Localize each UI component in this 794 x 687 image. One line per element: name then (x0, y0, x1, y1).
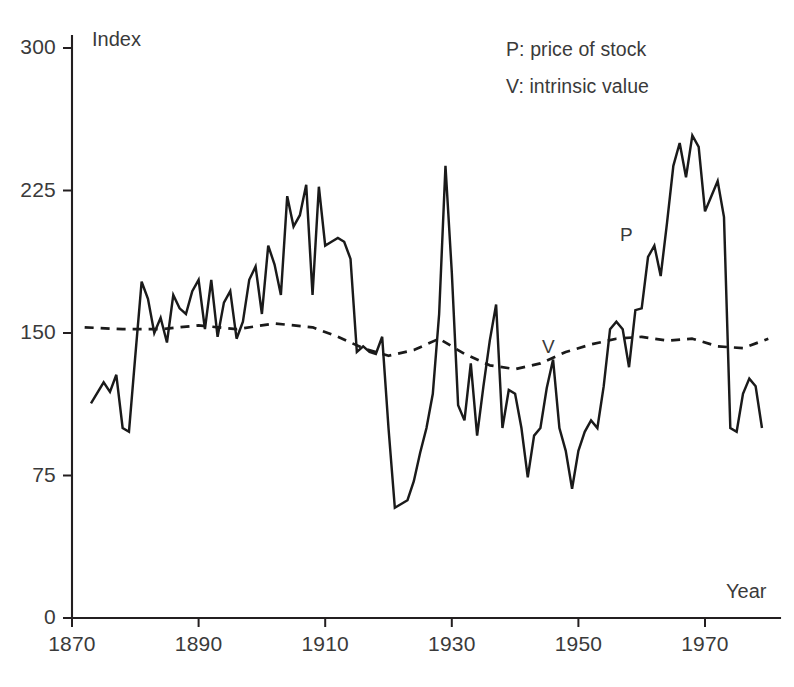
x-tick-label-1970: 1970 (665, 632, 745, 656)
x-tick-label-1910: 1910 (285, 632, 365, 656)
y-tick-label-300: 300 (0, 35, 56, 59)
x-tick-label-1870: 1870 (32, 632, 112, 656)
x-axis-title: Year (726, 580, 766, 603)
y-tick-label-0: 0 (0, 605, 56, 629)
x-axis-ticks (72, 618, 705, 627)
series-label-value: V (542, 336, 555, 358)
series-line-price (91, 135, 762, 507)
y-tick-label-150: 150 (0, 320, 56, 344)
y-tick-label-75: 75 (0, 463, 56, 487)
legend-item-value: V: intrinsic value (506, 75, 649, 98)
chart-plot-area (0, 0, 794, 687)
y-tick-label-225: 225 (0, 178, 56, 202)
y-axis-ticks (63, 48, 72, 618)
chart-figure: 075150225300 187018901910193019501970 In… (0, 0, 794, 687)
series-label-price: P (620, 224, 633, 246)
x-tick-label-1890: 1890 (159, 632, 239, 656)
legend-item-price: P: price of stock (506, 38, 646, 61)
axes-group (63, 36, 780, 627)
y-axis-title: Index (92, 28, 141, 51)
series-line-intrinsic-value (85, 324, 769, 370)
x-tick-label-1930: 1930 (412, 632, 492, 656)
x-tick-label-1950: 1950 (538, 632, 618, 656)
